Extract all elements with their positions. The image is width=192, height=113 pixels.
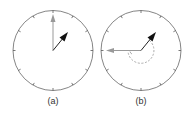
panel-b: (b) xyxy=(96,0,192,113)
rotation-arc xyxy=(128,41,154,64)
hand-arrow xyxy=(53,32,68,51)
angle-marker xyxy=(130,52,132,55)
reference-arrow-up xyxy=(51,14,56,51)
panel-label-a: (a) xyxy=(5,95,101,107)
panel-label-b: (b) xyxy=(93,95,189,107)
panel-a: (a) xyxy=(0,0,96,113)
reference-arrow-left xyxy=(106,48,141,53)
